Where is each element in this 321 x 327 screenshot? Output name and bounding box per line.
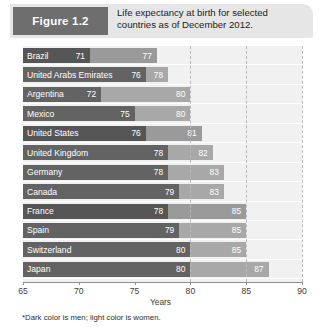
- women-value-label: 83: [210, 187, 224, 197]
- country-bar: Brazil7177: [23, 48, 157, 63]
- x-tick-85: [246, 282, 247, 285]
- women-value-label: 81: [187, 128, 201, 138]
- bar-row: United Kingdom7882: [23, 143, 302, 162]
- men-value-label: 78: [154, 167, 168, 177]
- women-value-label: 78: [154, 70, 168, 80]
- bar-row: United States7681: [23, 124, 302, 143]
- bar-row: Mexico7580: [23, 104, 302, 123]
- men-value-label: 80: [176, 245, 190, 255]
- x-tick-80: [190, 282, 191, 285]
- country-label: Argentina: [23, 89, 64, 99]
- men-value-label: 71: [76, 51, 90, 61]
- women-value-label: 77: [143, 51, 157, 61]
- men-value-label: 79: [165, 225, 179, 235]
- men-segment: United Kingdom78: [23, 145, 168, 160]
- men-value-label: 78: [154, 206, 168, 216]
- men-segment: Germany78: [23, 165, 168, 180]
- figure-header: Figure 1.2 Life expectancy at birth for …: [10, 4, 313, 38]
- x-tick-label-80: 80: [186, 286, 196, 296]
- men-segment: Japan80: [23, 262, 190, 277]
- country-label: Germany: [23, 167, 62, 177]
- x-tick-label-65: 65: [18, 286, 28, 296]
- men-value-label: 76: [131, 70, 145, 80]
- country-label: Switzerland: [23, 245, 71, 255]
- bar-rows: Brazil7177United Arabs Emirates7678Argen…: [23, 46, 302, 282]
- women-segment: 83: [179, 184, 224, 199]
- figure-panel: Figure 1.2 Life expectancy at birth for …: [0, 0, 321, 327]
- x-tick-label-70: 70: [74, 286, 84, 296]
- country-label: Mexico: [23, 109, 54, 119]
- men-value-label: 80: [176, 264, 190, 274]
- country-label: Canada: [23, 187, 57, 197]
- men-value-label: 72: [87, 89, 101, 99]
- women-segment: 85: [179, 223, 246, 238]
- country-bar: Germany7883: [23, 165, 224, 180]
- women-segment: 87: [190, 262, 268, 277]
- x-tick-label-85: 85: [241, 286, 251, 296]
- men-value-label: 79: [165, 187, 179, 197]
- women-value-label: 82: [198, 148, 212, 158]
- x-axis-line: [23, 282, 302, 283]
- bar-row: United Arabs Emirates7678: [23, 65, 302, 84]
- women-segment: 78: [146, 67, 168, 82]
- country-bar: Spain7985: [23, 223, 246, 238]
- country-bar: Argentina7280: [23, 87, 190, 102]
- country-bar: Canada7983: [23, 184, 224, 199]
- country-label: Spain: [23, 225, 49, 235]
- figure-number-badge: Figure 1.2: [13, 7, 108, 35]
- bar-row: Brazil7177: [23, 46, 302, 65]
- women-value-label: 80: [176, 109, 190, 119]
- men-segment: Argentina72: [23, 87, 101, 102]
- country-bar: France7885: [23, 204, 246, 219]
- x-axis-title: Years: [0, 297, 321, 307]
- women-segment: 85: [190, 242, 246, 257]
- men-segment: Switzerland80: [23, 242, 190, 257]
- women-value-label: 85: [232, 206, 246, 216]
- men-segment: France78: [23, 204, 168, 219]
- chart-plot-area: Brazil7177United Arabs Emirates7678Argen…: [23, 46, 302, 282]
- women-value-label: 80: [176, 89, 190, 99]
- bar-row: Spain7985: [23, 221, 302, 240]
- country-label: Brazil: [23, 51, 49, 61]
- men-segment: Spain79: [23, 223, 179, 238]
- bar-row: Switzerland8085: [23, 240, 302, 259]
- x-tick-70: [79, 282, 80, 285]
- women-value-label: 85: [232, 245, 246, 255]
- bar-row: Canada7983: [23, 182, 302, 201]
- country-label: United Kingdom: [23, 148, 88, 158]
- women-value-label: 85: [232, 225, 246, 235]
- men-value-label: 76: [131, 128, 145, 138]
- country-bar: United Arabs Emirates7678: [23, 67, 168, 82]
- x-tick-label-75: 75: [130, 286, 140, 296]
- bar-row: Japan8087: [23, 260, 302, 279]
- men-segment: Brazil71: [23, 48, 90, 63]
- chart-footnote: *Dark color is men; light color is women…: [22, 313, 161, 322]
- country-bar: United Kingdom7882: [23, 145, 213, 160]
- country-bar: United States7681: [23, 126, 202, 141]
- gridline-80: [190, 46, 191, 282]
- men-value-label: 78: [154, 148, 168, 158]
- country-label: United States: [23, 128, 79, 138]
- bar-row: Germany7883: [23, 163, 302, 182]
- x-tick-75: [135, 282, 136, 285]
- x-tick-65: [23, 282, 24, 285]
- country-label: France: [23, 206, 54, 216]
- men-segment: Mexico75: [23, 106, 135, 121]
- country-label: United Arabs Emirates: [23, 70, 113, 80]
- men-segment: United States76: [23, 126, 146, 141]
- bar-row: France7885: [23, 202, 302, 221]
- gridline-85: [246, 46, 247, 282]
- country-bar: Switzerland8085: [23, 242, 246, 257]
- bar-row: Argentina7280: [23, 85, 302, 104]
- gridline-90: [302, 46, 303, 282]
- women-value-label: 87: [254, 264, 268, 274]
- women-segment: 77: [90, 48, 157, 63]
- x-tick-90: [302, 282, 303, 285]
- women-segment: 83: [168, 165, 224, 180]
- men-segment: United Arabs Emirates76: [23, 67, 146, 82]
- figure-caption: Life expectancy at birth for selected co…: [108, 4, 313, 38]
- men-segment: Canada79: [23, 184, 179, 199]
- women-segment: 81: [146, 126, 202, 141]
- x-tick-label-90: 90: [297, 286, 307, 296]
- women-segment: 80: [101, 87, 190, 102]
